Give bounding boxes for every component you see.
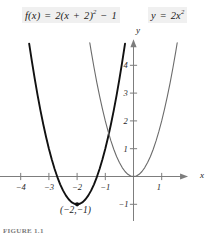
figure-caption: FIGURE 1.1 bbox=[3, 228, 44, 235]
curve-path bbox=[29, 44, 125, 205]
y-tick-label: −1 bbox=[119, 200, 129, 209]
y-tick-label: 2 bbox=[124, 117, 128, 126]
y-tick-label: 4 bbox=[124, 61, 128, 70]
x-tick-label: 1 bbox=[157, 183, 161, 192]
vertex-coordinate-label: (−2,−1) bbox=[60, 206, 91, 216]
x-tick-label: −3 bbox=[44, 183, 54, 192]
y-axis-arrow bbox=[130, 39, 136, 47]
y-tick-label: 1 bbox=[124, 145, 128, 154]
x-tick-label: −1 bbox=[100, 183, 110, 192]
figure-container: f(x) = 2(x + 2)2 − 1 y = 2x2 −4−3−2−11−1… bbox=[0, 0, 212, 235]
parabola-plot bbox=[0, 0, 212, 235]
x-axis-label: x bbox=[200, 171, 204, 180]
x-tick-label: −2 bbox=[72, 183, 82, 192]
y-axis-label: y bbox=[136, 26, 140, 35]
x-axis-arrow bbox=[180, 173, 188, 179]
x-tick-label: −4 bbox=[16, 183, 26, 192]
curves-group bbox=[29, 43, 177, 205]
y-tick-label: 3 bbox=[124, 89, 128, 98]
